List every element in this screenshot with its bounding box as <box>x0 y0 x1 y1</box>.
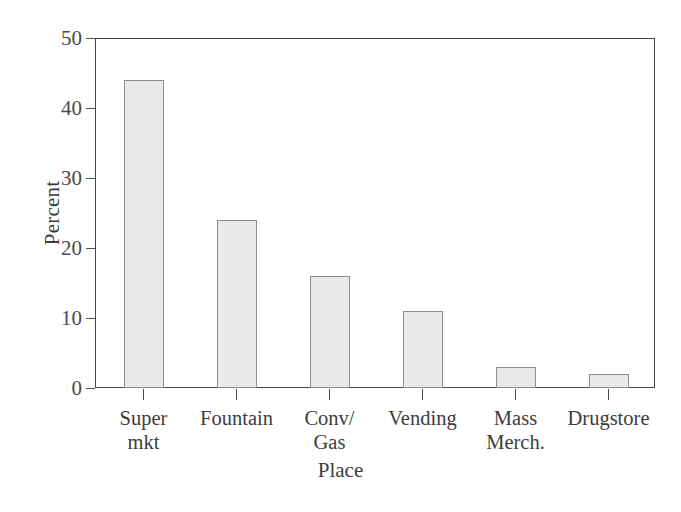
y-tick-label: 40 <box>44 98 82 119</box>
bar <box>217 220 257 388</box>
bars-layer <box>95 38 655 388</box>
y-tick-label: 0 <box>44 378 82 399</box>
y-axis-tick-labels: 0 10 20 30 40 50 <box>44 38 82 388</box>
x-tick-mark <box>608 389 609 400</box>
x-tick-mark <box>329 389 330 400</box>
x-tick-label-line1: Mass <box>494 407 537 429</box>
x-tick-label-line1: Conv/ <box>304 407 354 429</box>
x-tick-mark <box>143 389 144 400</box>
y-tick-label: 30 <box>44 168 82 189</box>
bar <box>124 80 164 388</box>
x-tick-mark <box>422 389 423 400</box>
y-tick-mark <box>86 318 95 319</box>
bar-chart: Percent 0 10 20 30 40 50 SupermktFountai… <box>0 0 681 512</box>
y-tick-label: 20 <box>44 238 82 259</box>
bar <box>589 374 629 388</box>
x-tick-mark <box>236 389 237 400</box>
x-tick-label-line1: Super <box>120 407 168 429</box>
y-tick-mark <box>86 38 95 39</box>
y-tick-label: 10 <box>44 308 82 329</box>
bar <box>403 311 443 388</box>
y-tick-mark <box>86 178 95 179</box>
y-tick-mark <box>86 248 95 249</box>
x-tick-label: Drugstore <box>539 406 679 454</box>
y-tick-label: 50 <box>44 28 82 49</box>
x-tick-mark <box>515 389 516 400</box>
y-tick-mark <box>86 388 95 389</box>
x-axis-title: Place <box>0 458 681 483</box>
bar <box>310 276 350 388</box>
bar <box>496 367 536 388</box>
x-tick-label-line1: Drugstore <box>568 407 650 429</box>
y-tick-mark <box>86 108 95 109</box>
x-tick-label-line2 <box>539 430 679 454</box>
